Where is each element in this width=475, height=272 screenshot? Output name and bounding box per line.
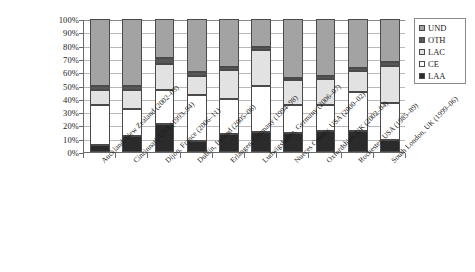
legend-item-lac[interactable]: LAC xyxy=(419,46,465,58)
legend-swatch-ce xyxy=(419,61,425,67)
bar-segment-lac[interactable] xyxy=(219,70,239,99)
bar-segment-und[interactable] xyxy=(316,19,336,76)
bar-segment-lac[interactable] xyxy=(122,90,142,110)
bar-segment-lac[interactable] xyxy=(187,76,207,95)
legend-swatch-lac xyxy=(419,49,425,55)
bar-segment-und[interactable] xyxy=(283,19,303,78)
y-axis-tick-label: 10% xyxy=(19,136,79,145)
stacked-bar-chart: 100%90%80%70%60%50%40%30%20%10%0% Auckla… xyxy=(0,0,475,272)
bar-segment-und[interactable] xyxy=(251,19,271,47)
legend-item-und[interactable]: UND xyxy=(419,22,465,34)
legend: UNDOTHLACCELAA xyxy=(414,18,466,84)
legend-label: CE xyxy=(428,60,439,69)
bar-segment-oth[interactable] xyxy=(283,78,303,81)
bar-segment-oth[interactable] xyxy=(90,86,110,90)
stacked-bar[interactable] xyxy=(90,20,110,152)
y-axis-tick-label: 60% xyxy=(19,69,79,78)
y-axis-tick-label: 40% xyxy=(19,96,79,105)
bar-segment-und[interactable] xyxy=(155,19,175,58)
legend-items: UNDOTHLACCELAA xyxy=(419,22,465,82)
legend-swatch-und xyxy=(419,25,425,31)
legend-label: OTH xyxy=(428,36,445,45)
bar-segment-oth[interactable] xyxy=(219,67,239,70)
y-axis-tick-label: 80% xyxy=(19,43,79,52)
legend-swatch-laa xyxy=(419,73,425,79)
bar-segment-oth[interactable] xyxy=(316,76,336,79)
bar-segment-und[interactable] xyxy=(219,19,239,67)
y-axis-tick-label: 0% xyxy=(19,149,79,158)
legend-item-ce[interactable]: CE xyxy=(419,58,465,70)
legend-label: UND xyxy=(428,24,446,33)
bar-segment-oth[interactable] xyxy=(155,58,175,65)
legend-label: LAA xyxy=(428,72,445,81)
y-axis-tick-label: 90% xyxy=(19,29,79,38)
bar-segment-und[interactable] xyxy=(122,19,142,86)
bar-segment-oth[interactable] xyxy=(187,72,207,76)
y-axis-tick-label: 20% xyxy=(19,122,79,131)
bar-segment-und[interactable] xyxy=(380,19,400,62)
legend-item-oth[interactable]: OTH xyxy=(419,34,465,46)
legend-item-laa[interactable]: LAA xyxy=(419,70,465,82)
bar-segment-lac[interactable] xyxy=(90,90,110,106)
legend-swatch-oth xyxy=(419,37,425,43)
bar-group[interactable] xyxy=(90,20,110,152)
legend-label: LAC xyxy=(428,48,445,57)
y-axis-tick-label: 50% xyxy=(19,83,79,92)
bar-segment-oth[interactable] xyxy=(251,47,271,50)
bar-segment-lac[interactable] xyxy=(251,50,271,86)
y-axis-tick-label: 70% xyxy=(19,56,79,65)
bar-segment-ce[interactable] xyxy=(90,105,110,144)
bar-segment-und[interactable] xyxy=(187,19,207,72)
bar-segment-lac[interactable] xyxy=(348,71,368,92)
bar-segment-oth[interactable] xyxy=(122,86,142,90)
bar-segment-und[interactable] xyxy=(90,19,110,86)
bar-segment-oth[interactable] xyxy=(348,68,368,71)
bar-segment-und[interactable] xyxy=(348,19,368,68)
y-axis-tick-label: 30% xyxy=(19,109,79,118)
bar-segment-oth[interactable] xyxy=(380,62,400,65)
x-axis-tick-mark xyxy=(83,153,84,158)
y-axis-tick-label: 100% xyxy=(19,16,79,25)
